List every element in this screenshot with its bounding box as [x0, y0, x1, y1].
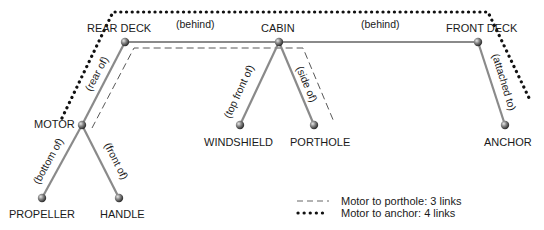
node-front-deck [474, 38, 482, 46]
node-label-windshield: WINDSHIELD [204, 136, 273, 148]
node-handle [115, 194, 123, 202]
node-label-anchor: ANCHOR [484, 136, 532, 148]
node-label-handle: HANDLE [100, 208, 145, 220]
node-windshield [236, 121, 244, 129]
semantic-network-diagram: (behind) (behind) (rear of) (bottom of) … [0, 0, 544, 230]
edge-label-top-front-of: (top front of) [221, 63, 256, 120]
edge-label-rear-of: (rear of) [82, 54, 110, 93]
node-propeller [38, 194, 46, 202]
node-label-rear-deck: REAR DECK [87, 22, 152, 34]
legend-label-dashed: Motor to porthole: 3 links [341, 195, 462, 207]
legend: Motor to porthole: 3 links Motor to anch… [297, 195, 462, 219]
node-label-propeller: PROPELLER [9, 208, 75, 220]
node-rear-deck [121, 38, 129, 46]
edges [42, 42, 505, 198]
node-label-cabin: CABIN [261, 22, 295, 34]
node-motor [78, 121, 86, 129]
legend-label-dotted: Motor to anchor: 4 links [341, 207, 456, 219]
node-label-motor: MOTOR [34, 118, 75, 130]
edge-label-bottom-of: (bottom of) [30, 136, 65, 186]
edge-label-attached-to: (attached to) [490, 52, 519, 112]
node-anchor [501, 121, 509, 129]
edge-label-behind-1: (behind) [176, 18, 215, 30]
edge-label-side-of: (side of) [294, 64, 320, 104]
node-label-porthole: PORTHOLE [290, 136, 350, 148]
node-porthole [310, 121, 318, 129]
node-label-front-deck: FRONT DECK [446, 22, 518, 34]
node-cabin [275, 38, 283, 46]
edge-label-behind-2: (behind) [361, 18, 400, 30]
